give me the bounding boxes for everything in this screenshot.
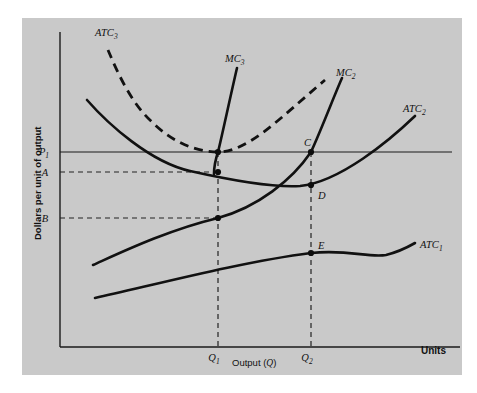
x-tick-q1-sub: 1 xyxy=(216,357,220,366)
curve-label-mc3: MC3 xyxy=(224,53,245,67)
y-tick-a: A xyxy=(41,167,49,178)
curve-label-mc2-sub: 2 xyxy=(352,72,356,81)
curve-label-atc3-text: ATC xyxy=(94,27,115,38)
curve-label-mc3-sub: 3 xyxy=(240,58,245,67)
marker-point-e xyxy=(308,250,314,256)
cost-curve-chart: Dollars per unit of output P1 A B Q1 Q2 … xyxy=(0,0,477,393)
curve-label-mc2-text: MC xyxy=(335,67,353,78)
curve-atc2 xyxy=(87,100,415,186)
y-tick-p1-sub: 1 xyxy=(45,151,49,160)
curve-label-atc1-sub: 1 xyxy=(439,244,443,253)
point-label-d: D xyxy=(317,190,326,201)
x-tick-q2: Q2 xyxy=(301,352,313,366)
marker-point-b xyxy=(215,215,221,221)
curve-atc1 xyxy=(95,243,415,298)
curve-label-atc3: ATC3 xyxy=(94,27,118,41)
y-tick-b: B xyxy=(42,213,49,224)
x-axis-title-end: ) xyxy=(273,357,276,368)
x-tick-q2-sub: 2 xyxy=(309,357,313,366)
curve-label-atc1: ATC1 xyxy=(419,239,443,253)
marker-point-d xyxy=(308,182,314,188)
figure-root: Dollars per unit of output P1 A B Q1 Q2 … xyxy=(0,0,477,393)
curve-label-atc1-text: ATC xyxy=(419,239,440,250)
curve-label-mc3-text: MC xyxy=(224,53,242,64)
curve-mc3 xyxy=(214,68,237,174)
curve-atc3 xyxy=(108,50,325,152)
marker-q1-price xyxy=(215,149,221,155)
marker-point-a xyxy=(215,169,221,175)
marker-point-c xyxy=(308,149,314,155)
x-tick-q1: Q1 xyxy=(208,352,219,366)
curve-label-atc2-text: ATC xyxy=(402,103,423,114)
point-label-e: E xyxy=(317,240,325,251)
x-axis-title-main: Output ( xyxy=(232,357,267,368)
x-axis-units-label: Units xyxy=(421,345,446,356)
curve-label-atc3-sub: 3 xyxy=(113,32,118,41)
curve-label-mc2: MC2 xyxy=(335,67,356,81)
point-label-c: C xyxy=(304,137,312,148)
x-axis-title: Output (Q) xyxy=(232,357,276,368)
curve-label-atc2-sub: 2 xyxy=(422,108,426,117)
curve-label-atc2: ATC2 xyxy=(402,103,426,117)
